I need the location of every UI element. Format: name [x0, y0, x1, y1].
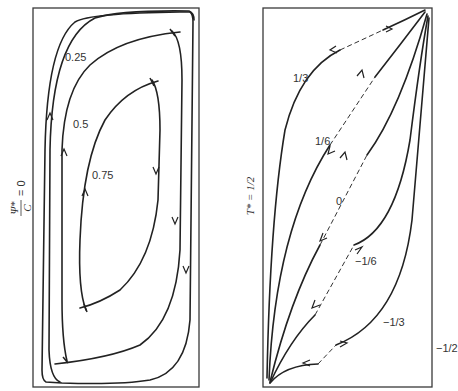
contour-0.5-right	[55, 31, 182, 364]
contour-0.25	[49, 11, 194, 382]
curve-0	[270, 245, 320, 382]
dashed-link	[320, 155, 367, 245]
dashed-link	[330, 77, 375, 145]
right-side-label: T* = 1/2	[244, 176, 256, 215]
curve-minus-1/6-top	[354, 16, 428, 245]
arrow-down-icon	[172, 217, 178, 224]
curve-label-minus-1/3: −1/3	[383, 316, 405, 328]
arrow-icon	[355, 247, 362, 254]
arrow-up-icon	[82, 189, 88, 196]
contour-0.75-right	[80, 80, 160, 308]
contour-label-0.5: 0.5	[73, 118, 88, 130]
curve-label-minus-1/2: −1/2	[436, 342, 458, 354]
dashed-link	[340, 30, 383, 50]
arrow-icon	[340, 152, 347, 160]
arrow-down-icon	[183, 266, 189, 273]
curve-label-minus-1/6: −1/6	[355, 255, 377, 267]
side-label-denominator: C	[21, 204, 33, 212]
left-panel-streamlines: 0.25 0.5 0.75 Ψ* C = 0	[8, 8, 199, 387]
curve-minus-1/6	[270, 315, 315, 383]
arrow-icon	[357, 70, 364, 78]
left-panel-frame	[33, 8, 199, 387]
dashed-link	[318, 345, 336, 364]
contour-label-0.75: 0.75	[92, 169, 113, 181]
contour-0.5	[62, 32, 180, 361]
figure: 0.25 0.5 0.75 Ψ* C = 0	[0, 0, 458, 391]
contour-outer	[42, 12, 193, 384]
arrow-icon	[330, 46, 337, 53]
right-panel-trajectories: 1/3 1/6 0 −1/6 −1/3 −1/2 T* = 1/2	[244, 8, 458, 387]
curve-label-1/3: 1/3	[293, 72, 308, 84]
contour-0.75-left	[80, 81, 158, 310]
right-panel-frame	[263, 8, 432, 387]
contour-label-0.25: 0.25	[65, 51, 86, 63]
curve-label-1/6: 1/6	[315, 135, 330, 147]
arrow-icon	[312, 300, 320, 308]
arrow-icon	[340, 341, 347, 347]
curve-label-0: 0	[336, 195, 342, 207]
side-label-numerator: Ψ*	[8, 201, 20, 215]
left-side-label: Ψ* C = 0	[8, 180, 33, 216]
side-label-rhs: = 0	[15, 180, 27, 196]
dashed-link	[315, 245, 354, 315]
